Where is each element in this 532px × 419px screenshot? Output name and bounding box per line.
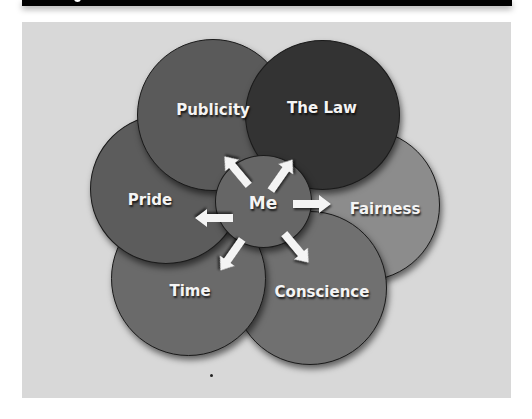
- label-fairness: Fairness: [350, 200, 421, 218]
- dot-mark: [210, 374, 213, 377]
- top-bar: [22, 0, 512, 6]
- label-time: Time: [169, 282, 210, 300]
- label-the-law: The Law: [287, 99, 357, 117]
- label-conscience: Conscience: [275, 283, 370, 301]
- cropped-glyph: [74, 0, 81, 2]
- arrow-left-icon: [199, 211, 233, 227]
- label-pride: Pride: [128, 191, 172, 209]
- label-me: Me: [249, 193, 277, 213]
- label-publicity: Publicity: [176, 101, 250, 119]
- arrow-right-icon: [293, 195, 327, 211]
